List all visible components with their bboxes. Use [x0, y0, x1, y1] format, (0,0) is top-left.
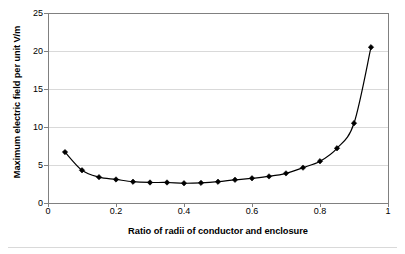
- chart-figure: Maximum electric field per unit V/m Rati…: [0, 0, 405, 254]
- plot-canvas: [0, 0, 405, 254]
- gridlines: [48, 13, 388, 165]
- axis-ticks: [44, 13, 388, 207]
- footer-divider: [8, 247, 397, 248]
- series-line: [65, 47, 371, 183]
